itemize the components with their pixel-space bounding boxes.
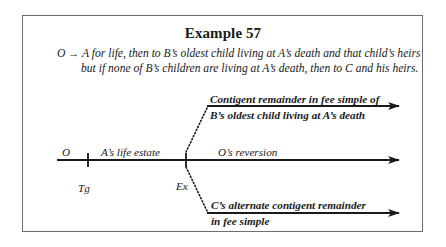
segment-label-life-estate: A’s life estate [101, 147, 160, 158]
lower-branch-label-2: in fee simple [211, 216, 269, 227]
start-label: O [62, 147, 70, 158]
segment-label-reversion: O’s reversion [218, 147, 277, 158]
lower-branch-label-1: C’s alternate contigent remainder [211, 200, 366, 211]
upper-dotted-branch [186, 108, 207, 152]
upper-branch-label-2: B’s oldest child living at A’s death [210, 110, 365, 121]
event-label-tg: Tg [78, 183, 90, 194]
event-label-ex: Ex [176, 181, 188, 192]
lower-dotted-branch [186, 167, 207, 211]
upper-branch-label-1: Contigent remainder in fee simple of [210, 94, 379, 105]
